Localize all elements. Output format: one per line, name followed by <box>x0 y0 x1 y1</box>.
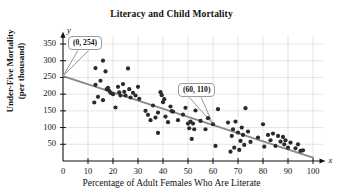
y-tick-label: 250 <box>30 71 56 81</box>
annotation-callout: (0, 254) <box>68 36 102 50</box>
y-tick-label: 150 <box>30 105 56 115</box>
chart-container: Literacy and Child Mortality Under-Five … <box>0 0 343 196</box>
y-tick-label: 200 <box>30 88 56 98</box>
x-tick-label: 80 <box>253 166 273 176</box>
y-tick-label: 300 <box>30 55 56 65</box>
y-tick-label: 50 <box>30 138 56 148</box>
x-tick-label: 100 <box>303 166 323 176</box>
x-tick-label: 40 <box>153 166 173 176</box>
x-tick-label: 10 <box>78 166 98 176</box>
x-tick-label: 30 <box>128 166 148 176</box>
x-tick-label: 60 <box>203 166 223 176</box>
x-tick-label: 0 <box>53 166 73 176</box>
y-tick-label: 350 <box>30 38 56 48</box>
x-axis-letter: x <box>329 155 333 165</box>
x-tick-label: 90 <box>278 166 298 176</box>
x-tick-label: 70 <box>228 166 248 176</box>
y-tick-label: 100 <box>30 122 56 132</box>
data-points <box>92 59 305 154</box>
annotation-callout: (60, 110) <box>178 83 215 97</box>
x-tick-label: 50 <box>178 166 198 176</box>
x-tick-label: 20 <box>103 166 123 176</box>
y-axis-letter: y <box>67 25 71 35</box>
